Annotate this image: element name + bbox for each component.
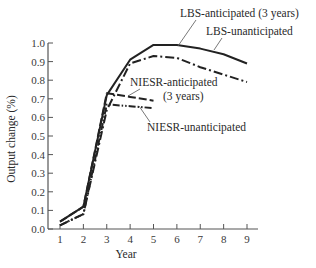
leader-lbs-anticipated (178, 20, 196, 46)
x-tick-label: 8 (221, 233, 227, 245)
y-tick-label: 0.0 (31, 223, 45, 235)
y-tick-label: 0.1 (31, 204, 45, 216)
x-tick-label: 5 (151, 233, 157, 245)
leader-niesr-anticipated (128, 89, 140, 96)
leader-lbs-unanticipated (214, 38, 222, 50)
x-tick-label: 4 (127, 233, 133, 245)
annotation-niesr-unanticipated: NIESR-unanticipated (147, 121, 246, 134)
annotation-niesr-anticipated-years: (3 years) (163, 90, 204, 103)
annotations: LBS-anticipated (3 years) LBS-unanticipa… (128, 7, 299, 134)
series-line-niesr-unanticipated (60, 104, 154, 225)
y-tick-label: 0.9 (31, 56, 45, 68)
x-tick-label: 2 (81, 233, 87, 245)
y-tick-label: 0.6 (31, 111, 45, 123)
annotation-lbs-anticipated: LBS-anticipated (3 years) (180, 7, 299, 20)
line-chart: 0.00.10.20.30.40.50.60.70.80.91.01234567… (0, 0, 316, 268)
annotation-lbs-unanticipated: LBS-unanticipated (206, 25, 293, 38)
x-tick-label: 7 (198, 233, 204, 245)
y-tick-label: 0.5 (31, 130, 45, 142)
y-tick-label: 0.8 (31, 74, 45, 86)
annotation-niesr-anticipated: NIESR-anticipated (130, 76, 218, 89)
y-axis-title: Output change (%) (5, 95, 18, 183)
x-axis-title: Year (115, 248, 136, 260)
x-tick-label: 3 (104, 233, 110, 245)
y-tick-label: 0.3 (31, 167, 45, 179)
series-lines (60, 45, 247, 225)
y-tick-label: 0.7 (31, 93, 45, 105)
x-tick-label: 9 (244, 233, 250, 245)
series-line-niesr-anticipated-3-years (60, 93, 154, 221)
y-tick-label: 0.4 (31, 149, 45, 161)
y-tick-label: 1.0 (31, 37, 45, 49)
y-tick-label: 0.2 (31, 186, 45, 198)
axes: 0.00.10.20.30.40.50.60.70.80.91.01234567… (31, 37, 258, 245)
x-tick-label: 6 (174, 233, 180, 245)
x-tick-label: 1 (57, 233, 63, 245)
